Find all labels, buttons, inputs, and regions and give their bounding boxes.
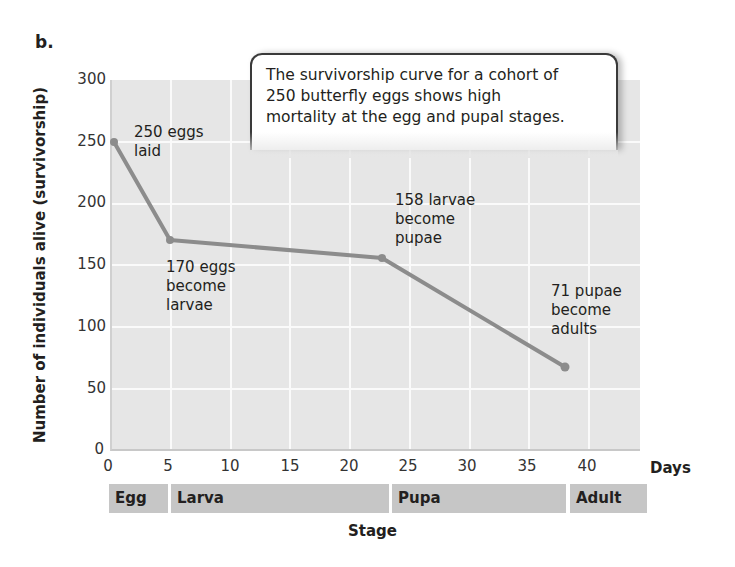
annotation-larvae-become-pupae: 158 larvae become pupae [395,191,475,248]
x-tick-0: 0 [93,457,123,475]
x-tick-15: 15 [275,457,305,475]
stage-axis-label: Stage [348,522,397,540]
annotation-line: laid [134,142,204,161]
stage-bar-adult: Adult [570,484,647,513]
y-tick-100: 100 [66,317,106,335]
data-point-egg [110,138,118,146]
annotation-line: 170 eggs [166,258,236,277]
data-point-larva [166,236,174,244]
annotation-line: 71 pupae [551,282,622,301]
annotation-line: 250 eggs [134,123,204,142]
x-tick-25: 25 [393,457,423,475]
data-point-pupa [378,254,386,262]
data-point-adult [561,363,570,372]
annotation-pupae-become-adults: 71 pupae become adults [551,282,622,339]
x-tick-30: 30 [452,457,482,475]
annotation-eggs-become-larvae: 170 eggs become larvae [166,258,236,315]
annotation-line: become [395,210,475,229]
annotation-line: larvae [166,296,236,315]
annotation-line: 158 larvae [395,191,475,210]
annotation-line: become [166,277,236,296]
curve-line [114,142,565,367]
stage-bar-egg: Egg [109,484,168,513]
y-tick-150: 150 [66,255,106,273]
x-tick-20: 20 [334,457,364,475]
annotation-line: pupae [395,229,475,248]
stage-bar-pupa: Pupa [392,484,566,513]
x-tick-40: 40 [572,457,602,475]
annotation-line: adults [551,320,622,339]
y-tick-200: 200 [66,193,106,211]
x-tick-10: 10 [215,457,245,475]
y-tick-50: 50 [66,379,106,397]
stage-bar-larva: Larva [171,484,389,513]
y-tick-0: 0 [64,440,104,458]
survivorship-curve [0,0,735,567]
x-tick-35: 35 [512,457,542,475]
x-axis-label: Days [650,459,691,477]
y-tick-250: 250 [66,132,106,150]
y-tick-300: 300 [66,70,106,88]
x-tick-5: 5 [153,457,183,475]
annotation-line: become [551,301,622,320]
annotation-eggs-laid: 250 eggs laid [134,123,204,161]
